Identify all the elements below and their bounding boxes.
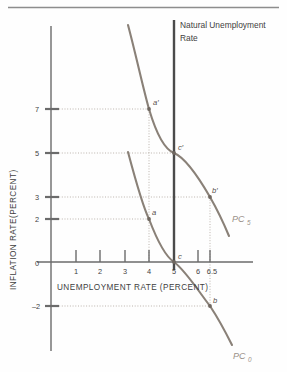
curve-label-pc0: PC 0	[233, 351, 252, 363]
point-label-b: b	[213, 296, 217, 305]
y-tick-label-5: 5	[35, 149, 39, 158]
curve-label-pc5: PC 5	[232, 214, 251, 226]
point-a	[147, 217, 151, 221]
point-label-a: a	[152, 208, 156, 217]
x-tick-label-5: 5	[172, 267, 176, 276]
natural-rate-label-line2: Rate	[180, 33, 198, 43]
y-tick-label-7: 7	[35, 105, 39, 114]
x-tick-label-6: 6	[196, 267, 200, 276]
guide-lines	[51, 109, 210, 306]
y-axis-title: INFLATION RATE(PERCENT)	[9, 169, 18, 290]
x-tick-label-3: 3	[123, 267, 127, 276]
point-label-b-prime: b′	[212, 186, 218, 195]
y-tick-label-2: 2	[35, 215, 39, 224]
curve-label-pc0-main: PC	[233, 351, 246, 361]
point-label-c-prime: c′	[178, 143, 184, 152]
x-tick-label-2: 2	[98, 267, 102, 276]
x-tick-label-6-5: 6.5	[207, 267, 217, 276]
curve-label-pc5-sub: 5	[247, 219, 251, 226]
curve-label-pc5-main: PC	[232, 214, 245, 224]
x-axis-ticks	[76, 250, 210, 262]
point-label-c: c	[178, 252, 182, 261]
phillips-curve-figure: 7 5 3 2 0 –2 1 2 3 4 5 6 6.5 UNEMPLOYMEN…	[0, 0, 287, 372]
point-c-prime	[172, 151, 176, 155]
point-label-a-prime: a′	[153, 98, 159, 107]
point-b	[208, 304, 212, 308]
curve-label-pc0-sub: 0	[248, 356, 252, 363]
point-a-prime	[147, 107, 151, 111]
x-tick-label-1: 1	[74, 267, 78, 276]
curve-pc0	[128, 152, 232, 345]
data-points	[147, 107, 212, 308]
point-b-prime	[208, 195, 212, 199]
y-tick-label-3: 3	[35, 193, 39, 202]
x-tick-label-4: 4	[147, 267, 151, 276]
point-c	[172, 260, 176, 264]
y-tick-label-neg2: –2	[32, 302, 40, 311]
natural-rate-label-line1: Natural Unemployment	[180, 20, 266, 30]
x-axis-title: UNEMPLOYMENT RATE (PERCENT)	[57, 283, 209, 292]
y-axis-ticks	[45, 109, 59, 306]
y-tick-label-0: 0	[35, 259, 39, 268]
